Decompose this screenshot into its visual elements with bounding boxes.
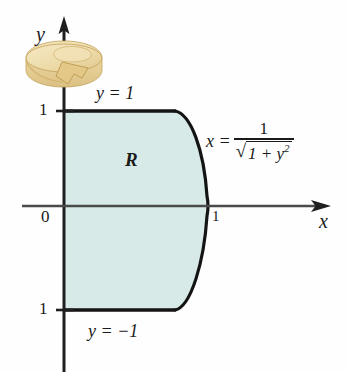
square-root-icon: √ 1 + y2 [236,141,292,162]
y-axis-label: y [36,24,45,44]
label-line-y-equals-1: y = 1 [96,84,134,102]
origin-label: 0 [41,208,50,225]
curve-equation-numerator: 1 [255,120,272,138]
revolution-arrow-inner-cut [54,46,91,62]
region-label-r: R [125,150,138,169]
curve-equation-lhs: x = [206,132,231,150]
revolution-arrow-icon [26,41,102,87]
tick-label-y-top: 1 [39,101,48,118]
curve-equation-fraction: 1 √ 1 + y2 [234,120,294,161]
radical-sign: √ [236,141,246,162]
figure-canvas: y x 1 0 1 1 R y = 1 y = −1 x = 1 √ 1 + y… [0,0,348,372]
radicand: 1 + y2 [246,141,292,162]
radicand-exponent: 2 [284,142,290,154]
tick-label-x-one: 1 [212,209,220,224]
curve-equation-label: x = 1 √ 1 + y2 [206,120,294,161]
figure-graphics [0,0,348,372]
region-r-fill [64,111,208,310]
x-axis-label: x [319,211,328,231]
tick-label-y-bottom: 1 [39,300,48,317]
label-line-y-equals-minus-1: y = −1 [88,322,138,340]
curve-equation-denominator: √ 1 + y2 [234,140,294,162]
radicand-base: 1 + y [248,143,284,162]
